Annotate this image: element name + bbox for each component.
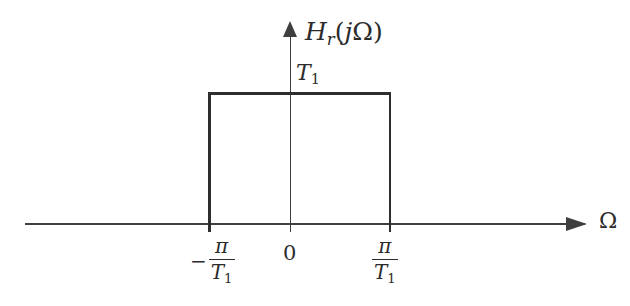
denominator-subscript: 1 bbox=[387, 271, 395, 286]
horizontal-axis-arrow-icon bbox=[566, 217, 587, 231]
fraction-denominator: T1 bbox=[209, 262, 235, 286]
fraction-negative-cutoff: π T1 bbox=[209, 236, 235, 286]
transfer-function-subscript: r bbox=[327, 30, 335, 49]
horizontal-axis-line bbox=[25, 223, 585, 225]
denominator-symbol: T bbox=[211, 260, 224, 284]
tick-label-negative-cutoff: − π T1 bbox=[190, 236, 235, 286]
vertical-axis-arrow-icon bbox=[283, 21, 297, 37]
fraction-positive-cutoff: π T1 bbox=[372, 236, 398, 286]
tick-label-origin: 0 bbox=[283, 243, 296, 264]
amplitude-symbol: T bbox=[296, 60, 311, 85]
transfer-function-label: Hr(jΩ) bbox=[305, 19, 383, 48]
amplitude-subscript: 1 bbox=[311, 71, 320, 87]
vertical-axis-line bbox=[290, 30, 292, 232]
paren-close: ) bbox=[373, 17, 383, 46]
passband-left-edge bbox=[208, 92, 211, 232]
denominator-symbol: T bbox=[374, 260, 387, 284]
transfer-function-symbol: H bbox=[305, 17, 327, 46]
passband-top-edge bbox=[208, 92, 391, 95]
fraction-numerator: π bbox=[376, 236, 393, 257]
denominator-subscript: 1 bbox=[224, 271, 232, 286]
passband-right-edge bbox=[389, 92, 392, 232]
horizontal-axis-label: Ω bbox=[599, 210, 617, 232]
filter-response-figure: Hr(jΩ) T1 Ω − π T1 0 π T1 bbox=[0, 0, 630, 306]
fraction-numerator: π bbox=[213, 236, 230, 257]
paren-open: ( bbox=[335, 17, 345, 46]
omega-symbol: Ω bbox=[352, 17, 373, 46]
fraction-denominator: T1 bbox=[372, 262, 398, 286]
amplitude-label: T1 bbox=[296, 62, 320, 87]
minus-sign: − bbox=[190, 251, 207, 271]
tick-label-positive-cutoff: π T1 bbox=[372, 236, 398, 286]
